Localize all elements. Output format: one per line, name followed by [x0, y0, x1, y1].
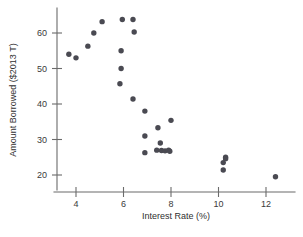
data-point	[155, 125, 160, 130]
data-point	[142, 150, 147, 155]
data-point	[118, 66, 123, 71]
y-tick-label: 60	[37, 28, 47, 38]
data-point	[142, 133, 147, 138]
data-points	[66, 17, 278, 180]
x-axis: 4681012	[54, 187, 295, 209]
data-point	[130, 96, 135, 101]
data-point	[158, 140, 163, 145]
data-point	[73, 55, 78, 60]
x-tick-label: 4	[73, 199, 78, 209]
data-point	[91, 30, 96, 35]
x-tick-label: 12	[261, 199, 271, 209]
data-point	[85, 43, 90, 48]
data-point	[120, 17, 125, 22]
x-tick-label: 6	[121, 199, 126, 209]
x-tick-label: 8	[168, 199, 173, 209]
data-point	[117, 81, 122, 86]
scatter-chart-figure: 2030405060 4681012 Interest Rate (%) Amo…	[0, 0, 303, 237]
y-tick-label: 50	[37, 64, 47, 74]
y-axis-ticks: 2030405060	[37, 28, 62, 180]
data-point	[221, 167, 226, 172]
data-point	[118, 48, 123, 53]
y-axis: 2030405060	[37, 8, 62, 190]
data-point	[167, 149, 172, 154]
y-tick-label: 20	[37, 170, 47, 180]
plot-canvas: 2030405060 4681012 Interest Rate (%) Amo…	[0, 0, 303, 237]
data-point	[99, 19, 104, 24]
data-point	[273, 174, 278, 179]
data-point	[130, 17, 135, 22]
y-tick-label: 40	[37, 99, 47, 109]
y-axis-title: Amount Borrowed ($2013 T)	[8, 43, 18, 156]
x-axis-title: Interest Rate (%)	[142, 211, 210, 221]
data-point	[66, 52, 71, 57]
x-tick-label: 10	[213, 199, 223, 209]
data-point	[131, 29, 136, 34]
x-axis-ticks: 4681012	[73, 187, 271, 209]
data-point	[168, 118, 173, 123]
data-point	[154, 147, 159, 152]
data-point	[221, 160, 226, 165]
data-point	[142, 108, 147, 113]
y-tick-label: 30	[37, 135, 47, 145]
